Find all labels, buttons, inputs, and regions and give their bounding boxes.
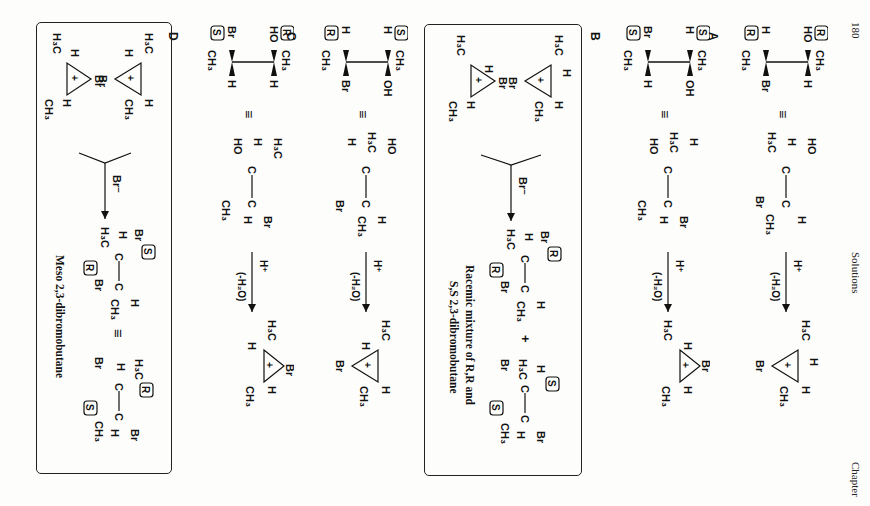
svg-text:Br: Br (499, 281, 511, 294)
svg-text:C: C (113, 383, 125, 391)
svg-text:S: S (627, 29, 638, 36)
svg-text:R: R (815, 29, 826, 37)
svg-text:S: S (142, 248, 153, 255)
svg-text:CH₃: CH₃ (740, 50, 752, 71)
svg-text:C: C (246, 200, 258, 208)
svg-text:(-H₂O): (-H₂O) (236, 272, 247, 301)
svg-text:H₃C: H₃C (668, 132, 680, 153)
svg-text:H: H (786, 138, 798, 146)
svg-text:+: + (69, 75, 80, 81)
svg-text:S: S (546, 380, 557, 387)
svg-text:≡: ≡ (657, 110, 673, 118)
svg-text:HO: HO (386, 138, 398, 155)
svg-text:H: H (61, 99, 73, 107)
svg-text:CH₃: CH₃ (43, 99, 55, 120)
svg-text:Br: Br (760, 80, 772, 93)
svg-text:H: H (483, 65, 495, 73)
svg-text:H: H (465, 101, 477, 109)
reagent-br: Br⁻ (517, 177, 529, 195)
svg-text:CH₃: CH₃ (123, 99, 135, 120)
svg-text:CH₃: CH₃ (280, 50, 292, 71)
svg-text:H: H (684, 26, 696, 34)
svg-text:CH₃: CH₃ (447, 101, 459, 122)
svg-text:HO: HO (648, 138, 660, 155)
svg-text:R: R (745, 29, 756, 37)
svg-text:+: + (518, 335, 533, 343)
svg-text:H: H (226, 80, 238, 88)
svg-text:Br: Br (93, 279, 105, 292)
svg-text:H: H (682, 342, 694, 350)
svg-text:R: R (84, 264, 95, 272)
svg-text:H₃C: H₃C (366, 132, 378, 153)
svg-text:OH: OH (684, 80, 696, 97)
svg-text:CH₃: CH₃ (356, 216, 368, 237)
svg-text:H₃C: H₃C (133, 359, 145, 380)
svg-text:H: H (688, 138, 700, 146)
svg-text:≡: ≡ (355, 110, 371, 118)
svg-text:CH₃: CH₃ (622, 50, 634, 71)
svg-text:C: C (519, 415, 531, 423)
svg-text:H: H (69, 49, 81, 57)
svg-text:Br: Br (226, 26, 238, 39)
svg-text:HO: HO (268, 26, 280, 43)
svg-text:H: H (535, 365, 547, 373)
svg-text:H: H (346, 138, 358, 146)
chapter-label: Chapter (850, 462, 862, 497)
svg-text:CH₃: CH₃ (696, 50, 708, 71)
svg-text:H: H (242, 216, 254, 224)
svg-text:H⁺: H⁺ (792, 260, 803, 272)
svg-text:H₃C: H₃C (662, 320, 674, 341)
svg-text:R: R (281, 29, 292, 37)
svg-text:CH₃: CH₃ (358, 386, 370, 407)
svg-text:(-H₂O): (-H₂O) (770, 272, 781, 301)
svg-text:H: H (658, 216, 670, 224)
racemic-caption-line1: Racemic mixture of R,R and (463, 265, 477, 405)
meso-caption: Meso 2,3-dibromobutane (53, 255, 67, 378)
svg-text:H₃C: H₃C (266, 320, 278, 341)
svg-text:H₃C: H₃C (380, 320, 392, 341)
svg-text:Br: Br (262, 216, 274, 229)
svg-text:Br: Br (133, 229, 145, 242)
svg-text:H: H (129, 299, 141, 307)
svg-text:H: H (376, 216, 388, 224)
svg-text:Br: Br (535, 431, 547, 444)
svg-text:CH₃: CH₃ (206, 50, 218, 71)
svg-text:+: + (782, 362, 793, 368)
svg-text:C: C (113, 253, 125, 261)
svg-text:C: C (780, 166, 792, 174)
svg-text:+: + (264, 362, 275, 368)
svg-text:R: R (325, 29, 336, 37)
svg-text:H: H (796, 216, 808, 224)
svg-text:CH₃: CH₃ (778, 386, 790, 407)
svg-text:Br: Br (93, 75, 105, 88)
svg-text:H: H (123, 49, 135, 57)
svg-text:H₃C: H₃C (272, 138, 284, 159)
svg-text:Br: Br (340, 80, 352, 93)
svg-text:H₃C: H₃C (455, 35, 467, 56)
row-c: H H OH Br CH₃ CH₃ S R ≡ HO H₃C H C C H C… (304, 20, 408, 500)
row-a: HO H H Br CH₃ CH₃ R R ≡ HO H H₃C C C H C… (724, 20, 828, 500)
svg-text:+: + (125, 75, 136, 81)
svg-text:H₃C: H₃C (99, 227, 111, 248)
svg-text:S: S (395, 29, 406, 36)
svg-text:Br: Br (129, 429, 141, 442)
svg-text:H: H (360, 342, 372, 350)
svg-text:C: C (662, 166, 674, 174)
row-d: HO Br H H CH₃ CH₃ R S ≡ H₃C H HO C C Br … (190, 20, 294, 500)
textbook-page: 180 Solutions Chapter HO H H Br CH₃ CH₃ … (0, 0, 870, 506)
svg-text:C: C (519, 255, 531, 263)
svg-text:+: + (473, 77, 484, 83)
svg-text:H: H (380, 386, 392, 394)
svg-text:H: H (682, 386, 694, 394)
svg-text:≡: ≡ (110, 329, 127, 338)
svg-text:(-H₂O): (-H₂O) (652, 272, 663, 301)
svg-text:H: H (535, 301, 547, 309)
svg-text:CH₃: CH₃ (636, 200, 648, 221)
svg-text:Br: Br (754, 196, 766, 209)
svg-text:H: H (760, 26, 772, 34)
meso-box: + H₃C Br H CH₃ H + H₃C Br H CH₃ H Br⁻ Br… (36, 22, 172, 474)
svg-text:H₃C: H₃C (51, 33, 63, 54)
svg-text:C: C (246, 166, 258, 174)
page-number: 180 (850, 22, 862, 39)
svg-text:R: R (140, 386, 151, 394)
